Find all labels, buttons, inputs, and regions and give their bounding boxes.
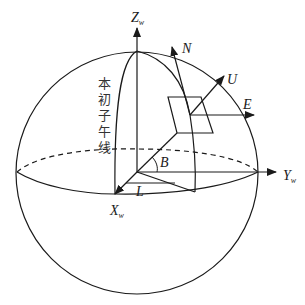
svg-text:子: 子 [98, 108, 111, 123]
equatorial-projection [137, 172, 195, 192]
x-axis-label: Xw [109, 203, 125, 220]
latitude-label: B [160, 155, 169, 170]
latitude-arc [152, 157, 157, 172]
prime-meridian-label: 本 初 子 午 线 [98, 76, 111, 155]
svg-text:本: 本 [98, 76, 111, 91]
z-axis-label: Zw [131, 10, 145, 27]
y-axis-label: Yw [283, 168, 297, 185]
svg-text:线: 线 [98, 140, 111, 155]
local-meridian [137, 51, 195, 192]
longitude-label: L [135, 184, 144, 199]
up-label: U [227, 72, 238, 87]
svg-text:午: 午 [98, 124, 111, 139]
up-arrow [190, 76, 224, 115]
prime-meridian [115, 51, 137, 194]
east-label: E [242, 97, 252, 112]
north-label: N [181, 41, 192, 56]
north-arrow [172, 47, 190, 115]
svg-text:初: 初 [98, 92, 111, 107]
earth-coordinate-diagram: Zw Yw Xw N U E B L 本 初 子 午 线 [0, 0, 305, 305]
